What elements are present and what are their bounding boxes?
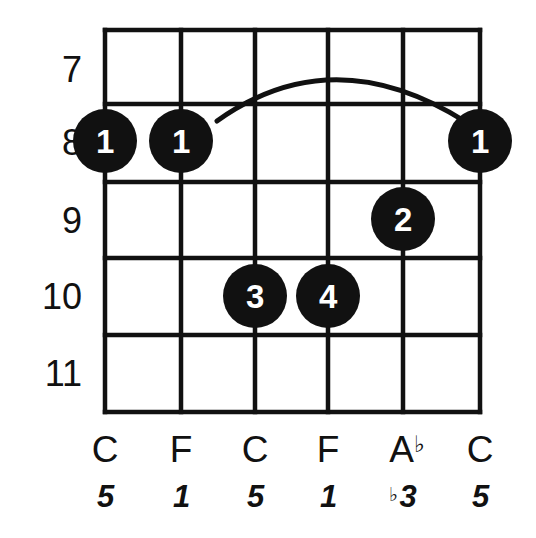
note-accidental-string5: ♭ <box>414 431 425 457</box>
note-letter-string3: C <box>242 429 269 470</box>
note-label-string6: C <box>467 431 494 468</box>
finger-dot-string1-fret8[interactable]: 1 <box>73 109 137 173</box>
note-letter-string5: A <box>389 429 414 470</box>
fret-number-11: 11 <box>14 356 82 392</box>
finger-dot-string5-fret9[interactable]: 2 <box>371 187 435 251</box>
note-label-string4: F <box>317 431 340 468</box>
note-letter-string4: F <box>317 429 340 470</box>
interval-degree-string3: 5 <box>247 479 264 514</box>
note-label-string1: C <box>92 431 119 468</box>
interval-degree-string6: 5 <box>472 479 489 514</box>
chord-diagram: 7 8 9 10 11 1 1 2 3 4 1 C F C F A♭ C 5 1… <box>0 0 536 538</box>
note-letter-string1: C <box>92 429 119 470</box>
interval-degree-string5: 3 <box>399 479 416 514</box>
finger-dot-string2-fret8[interactable]: 1 <box>149 109 213 173</box>
note-letter-string2: F <box>170 429 193 470</box>
interval-label-string6: 5 <box>471 481 489 512</box>
finger-dot-string4-fret10[interactable]: 4 <box>296 264 360 328</box>
note-label-string2: F <box>170 431 193 468</box>
interval-degree-string2: 1 <box>173 479 190 514</box>
interval-degree-string1: 5 <box>97 479 114 514</box>
note-letter-string6: C <box>467 429 494 470</box>
fret-number-10: 10 <box>14 279 82 315</box>
interval-label-string4: 1 <box>319 481 337 512</box>
fret-number-9: 9 <box>28 203 82 239</box>
interval-label-string1: 5 <box>96 481 114 512</box>
interval-label-string5: ♭3 <box>389 481 416 512</box>
interval-label-string3: 5 <box>246 481 264 512</box>
interval-degree-string4: 1 <box>320 479 337 514</box>
finger-dot-string6-fret8[interactable]: 1 <box>448 109 512 173</box>
note-label-string5: A♭ <box>389 431 425 468</box>
interval-accidental-string5: ♭ <box>389 484 398 505</box>
note-label-string3: C <box>242 431 269 468</box>
interval-label-string2: 1 <box>172 481 190 512</box>
finger-dot-string3-fret10[interactable]: 3 <box>223 264 287 328</box>
fret-number-7: 7 <box>28 52 82 88</box>
